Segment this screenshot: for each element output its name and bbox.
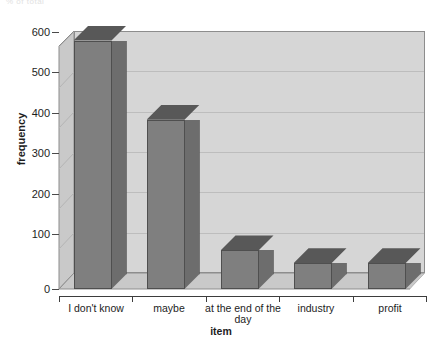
x-tick-mark-1	[132, 296, 133, 302]
bar-3-front	[294, 263, 332, 289]
bar-2-front	[221, 250, 259, 289]
y-tick-mark-300	[52, 153, 59, 154]
bar-4[interactable]	[368, 263, 406, 289]
bar-chart: % of total frequency 600 500 400	[0, 0, 442, 341]
y-tick-label-600: 600	[16, 27, 50, 37]
x-axis-title: item	[0, 325, 442, 337]
x-category-label-0: I don't know	[56, 303, 136, 314]
y-tick-mark-0	[52, 289, 59, 290]
bar-1[interactable]	[147, 120, 185, 289]
bar-2[interactable]	[221, 250, 259, 289]
bar-4-front	[368, 263, 406, 289]
x-tick-mark-4	[353, 296, 354, 302]
y-tick-label-400: 400	[16, 108, 50, 118]
x-tick-mark-0	[59, 296, 60, 302]
bar-1-front	[147, 120, 185, 289]
y-tick-label-500: 500	[16, 67, 50, 77]
y-tick-mark-600	[52, 32, 59, 33]
x-axis-line	[59, 296, 426, 297]
y-tick-mark-100	[52, 234, 59, 235]
x-category-label-2: at the end of the day	[203, 303, 283, 325]
y-tick-mark-500	[52, 72, 59, 73]
bar-3[interactable]	[294, 263, 332, 289]
bar-0[interactable]	[74, 41, 112, 289]
y-axis-ticks: 600 500 400 300 200 100 0	[12, 0, 50, 341]
y-tick-label-300: 300	[16, 148, 50, 158]
y-tick-mark-200	[52, 194, 59, 195]
y-tick-label-0: 0	[16, 284, 50, 294]
bar-1-side	[185, 120, 200, 289]
y-tick-mark-400	[52, 113, 59, 114]
x-category-label-3: industry	[276, 303, 356, 314]
y-tick-label-200: 200	[16, 189, 50, 199]
x-category-label-1: maybe	[129, 303, 209, 314]
x-tick-mark-5	[426, 296, 427, 302]
bar-0-side	[112, 41, 127, 289]
x-category-label-4: profit	[350, 303, 430, 314]
y-tick-label-100: 100	[16, 229, 50, 239]
bar-0-front	[74, 41, 112, 289]
